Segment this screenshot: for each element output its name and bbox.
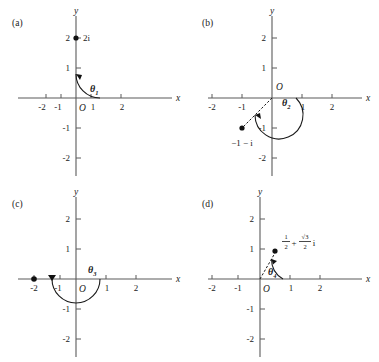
panel-c-label: (c) [12,199,23,210]
y-tick-label-neg1: -1 [63,304,71,314]
panel-a-plot: (a) -2 -1 1 2 2 1 -1 -2 O x y 2 [0,0,189,181]
y-tick-label-2: 2 [262,33,267,43]
y-tick-label-1: 1 [66,63,71,73]
x-axis-label: x [175,93,181,103]
plotted-point [272,248,277,253]
panel-d-label: (d) [202,199,213,210]
theta-label-3: θ3 [88,264,97,277]
y-tick-label-neg1: -1 [63,123,71,133]
panel-b-plot: (b) -2 -1 1 2 2 1 -1 -2 O x y [190,0,379,181]
fraction-numerator-2: √3 [302,233,309,240]
origin-label: O [79,103,86,113]
y-tick-label-neg2: -2 [247,334,255,344]
x-tick-label-1: 1 [105,283,110,293]
panel-c: (c) -2 -1 1 2 2 1 -1 -2 O x y [0,181,189,362]
plotted-point [239,125,244,130]
angle-arc-theta2 [255,98,303,139]
y-tick-label-1: 1 [250,244,255,254]
y-axis-label: y [257,187,263,197]
panel-b: (b) -2 -1 1 2 2 1 -1 -2 O x y [190,0,379,181]
y-tick-label-neg2: -2 [63,334,71,344]
fraction-numerator-1: 1 [284,233,287,240]
y-tick-label-neg2: -2 [259,153,267,163]
x-tick-label-neg2: -2 [30,283,38,293]
theta-label-1: θ1 [90,83,98,96]
x-tick-label-neg1: -1 [54,102,62,112]
imaginary-unit: i [313,238,316,248]
x-tick-label-neg2: -2 [208,283,216,293]
fraction-denominator-2: 2 [303,243,306,250]
theta-label-2: θ2 [282,97,291,110]
point-label: 2i [83,33,91,43]
x-axis-label: x [365,274,371,284]
y-axis-label: y [269,6,275,16]
point-label: −1 − i [231,138,253,148]
y-tick-label-neg2: -2 [63,153,71,163]
x-axis-label: x [365,93,371,103]
fraction-operator: + [291,238,296,248]
panel-a-label: (a) [12,18,23,29]
x-tick-label-neg2: -2 [208,102,216,112]
panel-d-plot: (d) -2 -1 1 2 2 1 -1 -2 O x y [190,181,379,362]
y-tick-label-2: 2 [66,33,71,43]
y-tick-label-neg1: -1 [247,304,255,314]
panel-b-label: (b) [202,18,213,29]
panel-d: (d) -2 -1 1 2 2 1 -1 -2 O x y [190,181,379,362]
arc-arrowhead [48,275,56,281]
point-label-fraction: 1 2 + √3 2 i [282,233,316,250]
y-tick-label-2: 2 [250,214,255,224]
x-tick-label-neg1: -1 [238,102,246,112]
plotted-point [73,35,78,40]
x-tick-label-2: 2 [330,102,335,112]
x-tick-label-2: 2 [120,102,125,112]
x-tick-label-1: 1 [91,102,96,112]
theta-label-4: θ4 [268,266,277,279]
plotted-point [31,276,37,282]
y-tick-label-1: 1 [262,63,267,73]
origin-label: O [263,284,270,294]
x-axis-label: x [175,274,181,284]
x-tick-label-1: 1 [289,283,294,293]
y-axis-label: y [73,6,79,16]
panel-c-plot: (c) -2 -1 1 2 2 1 -1 -2 O x y [0,181,189,362]
y-axis-label: y [73,187,79,197]
x-tick-label-2: 2 [318,283,323,293]
origin-label: O [276,82,283,92]
fraction-denominator-1: 2 [284,243,287,250]
terminal-ray-dashed [242,98,272,128]
y-tick-label-2: 2 [66,214,71,224]
x-tick-label-neg2: -2 [38,102,46,112]
origin-label: O [79,284,86,294]
panel-a: (a) -2 -1 1 2 2 1 -1 -2 O x y 2 [0,0,189,181]
x-tick-label-neg1: -1 [234,283,242,293]
y-tick-label-1: 1 [66,244,71,254]
complex-plane-figure: (a) -2 -1 1 2 2 1 -1 -2 O x y 2 [0,0,379,362]
x-tick-label-2: 2 [134,283,139,293]
